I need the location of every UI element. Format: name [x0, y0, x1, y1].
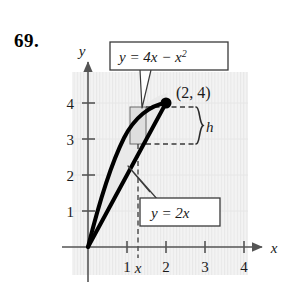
parabola-callout-label: y = 4x − x2: [117, 48, 187, 65]
intersection-point-dot: [161, 98, 172, 109]
x-tick-label-3: 3: [201, 259, 209, 275]
y-tick-label-3: 3: [67, 132, 75, 148]
y-tick-label-4: 4: [67, 96, 75, 112]
x-tick-label-4: 4: [240, 259, 248, 275]
x-axis-label: x: [270, 240, 278, 256]
parabola-exponent: 2: [182, 48, 187, 59]
y-tick-label-1: 1: [67, 204, 75, 220]
graph-canvas: h 1 2 3 4 x 4 3 2: [0, 0, 293, 294]
x-tick-label-1: 1: [123, 259, 131, 275]
x-tick-label-2: 2: [162, 259, 170, 275]
textbook-figure: 69.: [0, 0, 293, 294]
x-variable-marker: x: [134, 260, 142, 276]
y-tick-label-2: 2: [67, 168, 75, 184]
point-label: (2, 4): [176, 84, 211, 102]
h-label: h: [206, 119, 214, 135]
y-axis-label: y: [77, 43, 86, 59]
line-callout-label: y = 2x: [149, 205, 190, 221]
